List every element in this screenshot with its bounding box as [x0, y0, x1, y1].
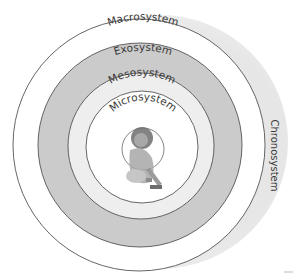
chronosystem-label: Chronosystem: [269, 119, 280, 191]
ecological-systems-diagram: Macrosystem Exosystem Mesosystem Microsy…: [0, 0, 297, 277]
